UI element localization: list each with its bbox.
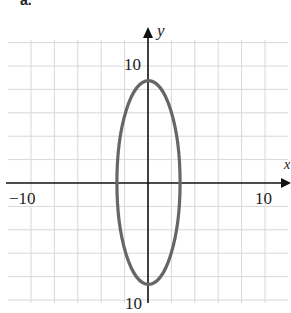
x-axis-arrow-icon (281, 178, 291, 188)
y-axis-arrow-icon (143, 27, 153, 38)
y-tick-10: 10 (124, 56, 141, 73)
y-tick-neg10: 10 (125, 295, 142, 312)
y-axis-label: y (157, 22, 165, 39)
x-tick-neg10: −10 (9, 190, 36, 207)
axes (6, 27, 291, 303)
x-tick-10: 10 (255, 190, 272, 207)
x-axis-label: x (284, 158, 290, 172)
